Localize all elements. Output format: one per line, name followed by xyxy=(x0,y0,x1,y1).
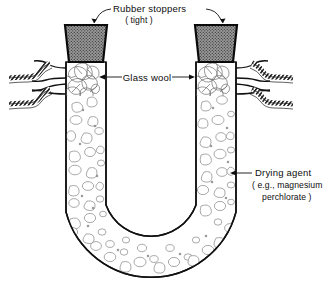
drying-agent-line1: Drying agent xyxy=(255,167,311,178)
rubber-stopper-right xyxy=(195,25,237,62)
drying-agent-line2: ( e.g., magnesium xyxy=(252,180,322,190)
rubber-stoppers-line2: ( tight ) xyxy=(125,15,153,25)
rubber-tubing-lower-left xyxy=(9,89,52,109)
rubber-stopper-left xyxy=(65,25,107,62)
rubber-tubing-lower-right xyxy=(250,89,293,109)
u-tube-inner-wall xyxy=(106,62,196,236)
glass-wool-plug-right xyxy=(196,62,230,99)
u-tube-drying-apparatus-figure: Rubber stoppers ( tight ) Glass wool Dry… xyxy=(0,0,328,283)
label-glass-wool: Glass wool xyxy=(123,72,171,83)
rubber-stoppers-line1: Rubber stoppers xyxy=(113,3,186,14)
glass-wool-line1: Glass wool xyxy=(123,72,171,83)
label-rubber-stoppers: Rubber stoppers ( tight ) xyxy=(113,3,186,25)
drying-agent-line3: perchlorate ) xyxy=(262,192,312,202)
label-drying-agent: Drying agent ( e.g., magnesium perchlora… xyxy=(252,167,322,202)
glass-wool-plug-left xyxy=(66,62,100,99)
drying-agent-granules xyxy=(66,96,235,273)
diagram-canvas: Rubber stoppers ( tight ) Glass wool Dry… xyxy=(0,0,328,283)
